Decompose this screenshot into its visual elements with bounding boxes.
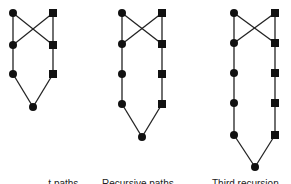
caption: ...t paths [40, 178, 78, 184]
circle-node-icon [230, 69, 238, 77]
edge [13, 74, 33, 107]
circle-node-icon [118, 40, 126, 48]
square-node-icon [271, 69, 279, 77]
square-node-icon [271, 131, 279, 139]
edge [142, 104, 162, 137]
square-node-icon [158, 70, 166, 78]
edge [255, 135, 275, 167]
square-node-icon [49, 70, 57, 78]
caption: Third recursion [212, 178, 279, 184]
circle-node-icon [29, 103, 37, 111]
edge [234, 135, 255, 167]
graph-1 [9, 9, 57, 111]
edge [122, 104, 142, 137]
square-node-icon [271, 39, 279, 47]
square-node-icon [158, 9, 166, 17]
square-node-icon [49, 9, 57, 17]
graph-2 [118, 9, 166, 141]
edge [33, 74, 53, 107]
circle-node-icon [9, 70, 17, 78]
square-node-icon [271, 99, 279, 107]
circle-node-icon [230, 99, 238, 107]
graph-3 [230, 9, 279, 171]
circle-node-icon [9, 41, 17, 49]
circle-node-icon [230, 39, 238, 47]
circle-node-icon [230, 131, 238, 139]
diagram-canvas [0, 0, 291, 184]
square-node-icon [49, 41, 57, 49]
circle-node-icon [251, 163, 259, 171]
circle-node-icon [230, 9, 238, 17]
circle-node-icon [118, 9, 126, 17]
square-node-icon [158, 40, 166, 48]
square-node-icon [158, 100, 166, 108]
square-node-icon [271, 9, 279, 17]
circle-node-icon [118, 70, 126, 78]
caption: Recursive paths [102, 178, 174, 184]
circle-node-icon [9, 9, 17, 17]
circle-node-icon [118, 100, 126, 108]
circle-node-icon [138, 133, 146, 141]
